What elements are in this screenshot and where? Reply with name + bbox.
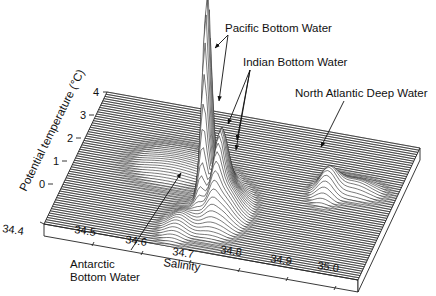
y-tick-0: 0: [39, 178, 45, 190]
annotation-indian-bottom-water: Indian Bottom Water: [243, 56, 348, 68]
annotation-pacific-bottom-water: Pacific Bottom Water: [225, 22, 332, 34]
y-axis: [40, 92, 107, 224]
ts-volume-surface-chart: 4 3 2 1 0 Potential temperature (°C) 34.…: [0, 0, 436, 296]
x-tick-35.0: 35.0: [317, 259, 340, 274]
y-tick-3: 3: [80, 109, 86, 121]
annotation-north-atlantic-deep-water: North Atlantic Deep Water: [295, 87, 428, 99]
y-tick-4: 4: [93, 86, 99, 98]
x-tick-34.4: 34.4: [2, 222, 25, 237]
annotation-antarctic-line2: Bottom Water: [70, 271, 140, 283]
annotation-antarctic-line1: Antarctic: [70, 258, 115, 270]
y-tick-1: 1: [53, 155, 59, 167]
y-tick-2: 2: [67, 132, 73, 144]
y-axis-title: Potential temperature (°C): [17, 67, 86, 193]
